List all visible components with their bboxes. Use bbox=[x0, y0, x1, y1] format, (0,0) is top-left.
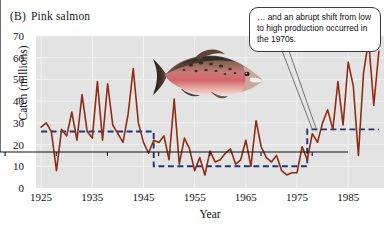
y-axis-title: Catch (millions) bbox=[17, 13, 29, 153]
x-axis-title: Year bbox=[36, 208, 384, 220]
x-tick-label: 1955 bbox=[184, 191, 206, 203]
y-tick-label: 0 bbox=[19, 182, 25, 194]
y-tick-label: 10 bbox=[13, 160, 24, 172]
x-tick-label: 1975 bbox=[286, 191, 308, 203]
x-tick-label: 1985 bbox=[337, 191, 359, 203]
x-tick-label: 1945 bbox=[132, 191, 154, 203]
x-axis-tick-labels: 1925193519451955196519751985 bbox=[36, 191, 384, 207]
x-tick-label: 1935 bbox=[81, 191, 103, 203]
x-tick-label: 1965 bbox=[235, 191, 257, 203]
figure-panel-b-pink-salmon: (B)Pink salmon 010203040506070 192519351… bbox=[0, 0, 392, 235]
annotation-callout-text: … and an abrupt shift from low to high p… bbox=[257, 12, 374, 46]
annotation-callout: … and an abrupt shift from low to high p… bbox=[249, 7, 381, 52]
x-tick-label: 1925 bbox=[30, 191, 52, 203]
